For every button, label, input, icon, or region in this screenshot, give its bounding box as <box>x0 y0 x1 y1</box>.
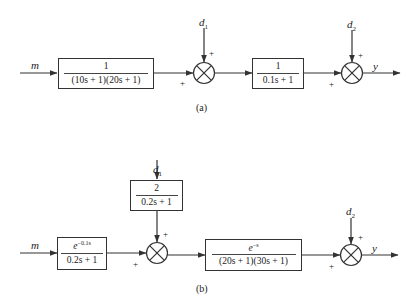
a-output-label: y <box>373 61 378 72</box>
a-s1-sign-top: + <box>209 49 214 58</box>
b-gp1-denominator: 0.2s + 1 <box>67 254 97 266</box>
a-d1-label: d1 <box>199 17 208 28</box>
b-caption: (b) <box>196 284 208 294</box>
b-gp1-numerator: e−0.1s <box>61 242 103 254</box>
b-block-gd1: 2 0.2s + 1 <box>130 180 183 211</box>
a-block-g1: 1 (10s + 1)(20s + 1) <box>58 58 154 89</box>
a-s2-sign-top: + <box>358 51 363 60</box>
b-s2-sign-top: + <box>358 233 363 242</box>
b-block-gp1: e−0.1s 0.2s + 1 <box>57 237 107 270</box>
a-block-g2: 1 0.1s + 1 <box>252 58 304 89</box>
b-d1-label: d1 <box>153 164 162 175</box>
a-g2-denominator: 0.1s + 1 <box>263 74 293 86</box>
b-gp2-numerator: e−s <box>212 244 296 256</box>
a-d2-label: d2 <box>347 19 356 30</box>
b-input-label: m <box>31 240 39 251</box>
a-s1-sign-left: + <box>180 79 185 88</box>
a-g1-denominator: (10s + 1)(20s + 1) <box>72 74 141 86</box>
a-input-label: m <box>31 60 39 71</box>
a-s2-sign-left: + <box>329 80 334 89</box>
b-gp2-denominator: (20s + 1)(30s + 1) <box>219 255 288 267</box>
b-d2-label: d2 <box>346 206 355 217</box>
b-gd1-denominator: 0.2s + 1 <box>141 196 171 208</box>
b-s1-sign-left: + <box>133 260 138 269</box>
b-s2-sign-left: + <box>329 262 334 271</box>
a-g2-numerator: 1 <box>257 62 299 74</box>
b-gd1-numerator: 2 <box>136 184 178 196</box>
b-output-label: y <box>372 243 377 254</box>
b-block-gp2: e−s (20s + 1)(30s + 1) <box>205 239 302 271</box>
a-g1-numerator: 1 <box>64 62 148 74</box>
b-s1-sign-top: + <box>163 230 168 239</box>
a-caption: (a) <box>196 103 207 113</box>
